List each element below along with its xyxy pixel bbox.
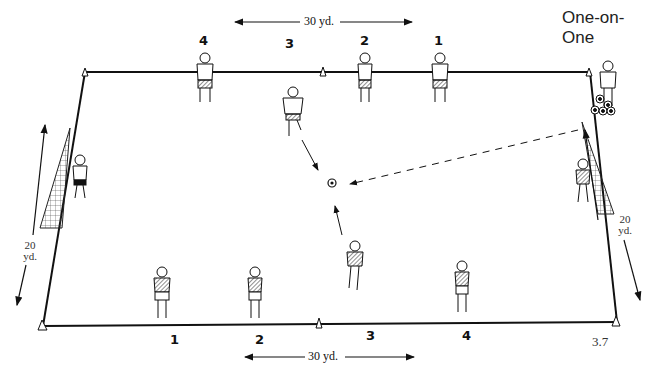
attacking-player-icon xyxy=(283,87,303,136)
player-icon xyxy=(455,261,469,312)
bottom-player-number: 4 xyxy=(462,328,471,343)
bottom-player-number: 1 xyxy=(170,332,179,347)
player-icon xyxy=(154,267,170,318)
goalkeeper-right-icon xyxy=(576,159,590,202)
player-icon xyxy=(358,53,372,102)
right-goal xyxy=(582,122,614,214)
bottom-team-players xyxy=(154,241,469,318)
left-goal xyxy=(40,128,70,228)
player-icon xyxy=(248,267,262,318)
top-team-players xyxy=(73,53,616,202)
figure-number: 3.7 xyxy=(592,334,608,350)
bottom-width-label: 30 yd. xyxy=(306,349,340,364)
movement-arrows xyxy=(302,130,578,235)
attacking-player-icon xyxy=(347,241,363,290)
player-icon xyxy=(197,53,213,102)
ball-icon xyxy=(328,179,336,187)
top-player-number: 1 xyxy=(434,33,443,48)
cones xyxy=(38,67,620,330)
bottom-player-number: 2 xyxy=(255,332,264,347)
right-length-label: 20 yd. xyxy=(614,214,636,236)
ball-supply-icon xyxy=(591,95,615,115)
bottom-player-number: 3 xyxy=(366,328,375,343)
right-length-unit: yd. xyxy=(614,225,636,236)
goalkeeper-left-icon xyxy=(73,155,87,198)
field-diagram xyxy=(0,0,653,377)
left-length-unit: yd. xyxy=(20,251,40,262)
top-player-number: 3 xyxy=(285,36,294,51)
left-length-label: 20 yd. xyxy=(20,240,40,262)
field-boundary xyxy=(43,72,617,326)
player-icon xyxy=(432,53,448,102)
top-player-number: 4 xyxy=(199,33,208,48)
top-width-label: 30 yd. xyxy=(302,14,336,29)
top-player-number: 2 xyxy=(360,33,369,48)
diagram-title: One-on-One xyxy=(562,8,653,48)
